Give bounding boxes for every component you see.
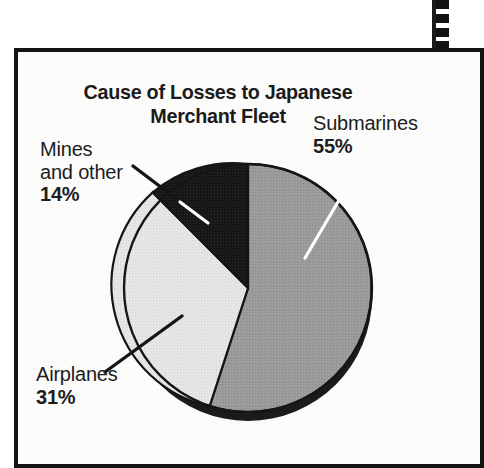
- pie-label-mines-and-other: Mines and other 14%: [40, 138, 123, 206]
- pie-label-submarines-value: 55%: [313, 135, 418, 158]
- pie-label-mines-value: 14%: [40, 183, 123, 206]
- pie-label-submarines-name: Submarines: [313, 112, 418, 135]
- pie-label-airplanes: Airplanes 31%: [36, 363, 118, 408]
- pie-label-mines-name-line-2: and other: [40, 161, 123, 184]
- pie-label-submarines: Submarines 55%: [313, 112, 418, 157]
- pie-label-airplanes-value: 31%: [36, 386, 118, 409]
- pie-label-mines-name-line-1: Mines: [40, 138, 123, 161]
- pie-label-airplanes-name: Airplanes: [36, 363, 118, 386]
